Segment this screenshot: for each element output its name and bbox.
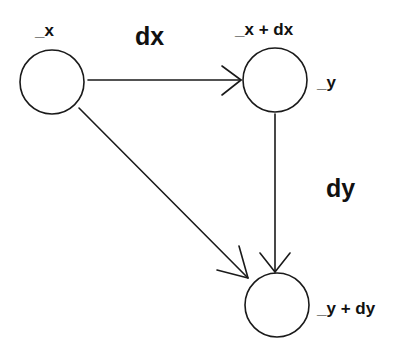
label-edge-dy: dy bbox=[326, 174, 355, 202]
nodes bbox=[20, 48, 309, 337]
labels: _x dx _x + dx _y dy _y + dy bbox=[34, 20, 376, 318]
label-node-y: _y bbox=[316, 73, 336, 92]
node-x bbox=[20, 50, 84, 114]
edge-line-diagonal bbox=[79, 108, 248, 278]
label-node-y-plus-dy: _y + dy bbox=[316, 299, 376, 318]
diagram-canvas: _x dx _x + dx _y dy _y + dy bbox=[0, 0, 409, 350]
edge-dy-arrow bbox=[260, 114, 290, 272]
label-edge-dx: dx bbox=[135, 22, 164, 50]
label-node-x: _x bbox=[34, 21, 54, 40]
label-node-x-plus-dx: _x + dx bbox=[234, 20, 294, 39]
node-x-plus-dx bbox=[243, 48, 307, 112]
edge-diagonal-arrow bbox=[79, 108, 248, 278]
node-y-plus-dy bbox=[245, 273, 309, 337]
edge-dx-arrow bbox=[88, 66, 241, 95]
